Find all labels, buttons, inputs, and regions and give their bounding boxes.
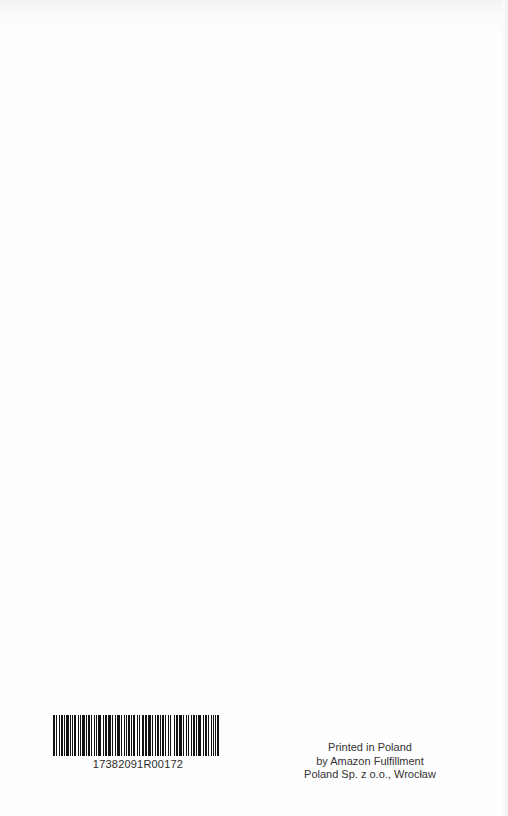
imprint-line-2: by Amazon Fulfillment <box>290 755 450 769</box>
barcode-space <box>219 715 220 756</box>
printer-imprint: Printed in Poland by Amazon Fulfillment … <box>290 741 450 782</box>
book-back-page: 17382091R00172 Printed in Poland by Amaz… <box>0 0 508 816</box>
barcode: 17382091R00172 <box>53 715 223 770</box>
page-edge-shadow <box>502 0 508 816</box>
barcode-bars <box>53 715 222 756</box>
barcode-number: 17382091R00172 <box>53 758 223 770</box>
imprint-line-1: Printed in Poland <box>290 741 450 755</box>
imprint-line-3: Poland Sp. z o.o., Wrocław <box>290 768 450 782</box>
